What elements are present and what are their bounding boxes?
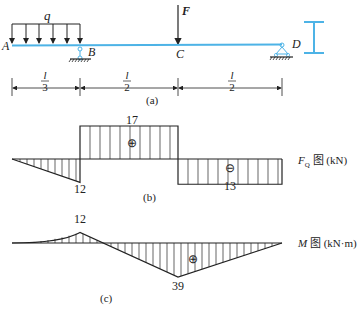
moment-label-12: 12 [74,212,86,226]
moment-label-39: 39 [172,279,184,293]
i-beam-section-icon [304,22,324,53]
moment-title: M 图 (kN·m) [297,237,357,250]
dim-1-denominator: 3 [42,81,48,93]
point-force: F [178,4,190,44]
caption-a: (a) [146,94,159,107]
caption-b: (b) [143,191,156,204]
force-label-f: F [181,4,190,18]
positive-sign-icon: ⊕ [127,136,137,150]
dim-3-denominator: 2 [229,81,235,93]
moment-diagram: 12 39 ⊕ M 图 (kN·m) (c) [12,212,357,305]
distributed-load: q [12,8,80,43]
negative-sign-icon: ⊖ [225,161,235,175]
moment-outline [12,233,282,277]
beam-line [12,45,282,46]
shear-label-17: 17 [126,113,138,127]
beam-diagram-canvas: q F A [0,0,362,315]
point-label-c: C [176,47,185,61]
positive-sign-icon: ⊕ [188,252,198,266]
beam-figure: q F A [1,4,324,107]
dimension-lines: l 3 l 2 l 2 [12,69,282,96]
shear-label-13: 13 [224,179,236,193]
point-label-a: A [1,39,10,53]
shear-label-12: 12 [74,182,86,196]
point-label-b: B [88,45,96,59]
dim-1-numerator: l [43,69,46,81]
caption-c: (c) [100,292,113,305]
roller-support-d [270,43,293,60]
dim-3-numerator: l [230,69,233,81]
shear-diagram: 17 12 13 ⊕ ⊖ FQ 图 (kN) (b) [12,113,347,204]
shear-outline [12,126,282,184]
point-label-d: D [291,37,301,51]
load-label-q: q [44,8,51,23]
moment-hatching [27,234,279,276]
shear-title: FQ 图 (kN) [297,154,347,169]
dim-2-numerator: l [125,69,128,81]
dim-2-denominator: 2 [124,81,130,93]
